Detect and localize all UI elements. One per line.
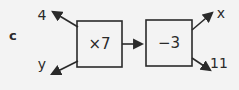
arrow-to-right-bottom xyxy=(192,58,210,70)
subtract-box-label: −3 xyxy=(158,34,180,52)
arrow-to-left-top xyxy=(53,12,78,27)
part-label: c xyxy=(9,28,17,43)
left-top-value: 4 xyxy=(38,7,47,23)
arrow-to-left-bottom xyxy=(52,61,78,74)
right-top-value: x xyxy=(217,5,225,21)
arrow-to-right-top xyxy=(192,13,212,30)
function-machine-diagram: c 4 y ×7 −3 x 11 xyxy=(0,0,239,90)
multiply-box-label: ×7 xyxy=(88,35,110,53)
right-bottom-value: 11 xyxy=(210,55,228,71)
left-bottom-value: y xyxy=(38,56,46,72)
diagram-canvas: c 4 y ×7 −3 x 11 xyxy=(0,0,239,90)
